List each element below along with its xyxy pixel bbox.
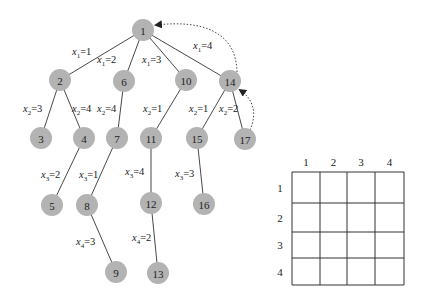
node-label: 14 [225, 76, 237, 88]
tree-node-10: 10 [175, 69, 197, 91]
edge-label: x3=3 [174, 168, 194, 182]
tree-node-6: 6 [113, 70, 135, 92]
state-space-tree-diagram: x1=1x1=2x1=3x1=4x2=3x2=4x2=4x2=1x2=1x2=2… [0, 0, 426, 304]
tree-node-12: 12 [140, 192, 162, 214]
edge-label: x1=1 [71, 46, 91, 60]
tree-node-2: 2 [49, 69, 71, 91]
node-label: 3 [38, 133, 44, 145]
node-label: 15 [192, 133, 204, 145]
node-label: 16 [199, 199, 211, 211]
tree-node-16: 16 [193, 193, 215, 215]
node-label: 13 [153, 268, 165, 280]
edge-label: x3=1 [78, 169, 98, 183]
board-column-label: 2 [331, 156, 337, 168]
edge-label: x2=3 [22, 103, 42, 117]
board-column-label: 1 [303, 156, 309, 168]
board-row-label: 3 [277, 239, 283, 251]
board-row-label: 2 [277, 212, 283, 224]
edge-label: x2=4 [96, 103, 117, 117]
edge-label: x2=1 [188, 103, 208, 117]
node-label: 12 [146, 198, 157, 210]
edge-label: x1=4 [192, 40, 213, 54]
edge-label: x2=2 [218, 103, 238, 117]
edge-label: x4=2 [131, 232, 151, 246]
edge-label: x1=2 [96, 54, 116, 68]
board-row-label: 1 [277, 182, 283, 194]
node-label: 10 [181, 75, 193, 87]
node-label: 7 [114, 133, 120, 145]
edge-label: x3=4 [124, 166, 145, 180]
node-label: 8 [84, 200, 90, 212]
node-label: 6 [121, 76, 127, 88]
edge-label: x3=2 [40, 169, 60, 183]
node-label: 4 [81, 133, 87, 145]
board-row-label: 4 [277, 266, 283, 278]
tree-node-3: 3 [30, 127, 52, 149]
tree-node-4: 4 [73, 127, 95, 149]
tree-node-9: 9 [105, 261, 127, 283]
tree-node-7: 7 [106, 127, 128, 149]
node-label: 1 [140, 25, 146, 37]
edge-label: x1=3 [141, 54, 161, 68]
node-label: 9 [113, 267, 119, 279]
tree-node-17: 17 [234, 128, 256, 150]
backtrack-arrow-17-to-14 [240, 90, 254, 130]
edge-label: x2=1 [142, 103, 162, 117]
tree-node-1: 1 [132, 19, 154, 41]
chess-board-4x4: 12341234 [277, 156, 404, 285]
tree-node-15: 15 [186, 127, 208, 149]
node-label: 5 [49, 200, 55, 212]
tree-node-14: 14 [219, 70, 241, 92]
tree-node-11: 11 [140, 127, 162, 149]
board-column-label: 4 [387, 156, 393, 168]
board-column-label: 3 [358, 156, 364, 168]
tree-node-8: 8 [76, 194, 98, 216]
node-label: 11 [146, 133, 157, 145]
tree-node-5: 5 [41, 194, 63, 216]
node-label: 2 [57, 75, 63, 87]
tree-node-13: 13 [147, 262, 169, 284]
node-label: 17 [240, 134, 252, 146]
edge-label: x4=3 [75, 236, 95, 250]
